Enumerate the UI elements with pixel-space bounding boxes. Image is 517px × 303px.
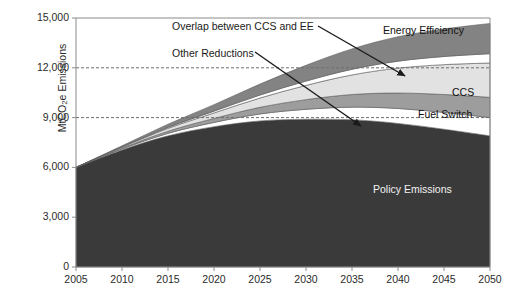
x-tick-label-2020: 2020 bbox=[200, 273, 228, 285]
x-tick-label-2030: 2030 bbox=[292, 273, 320, 285]
y-tick-label-15000: 15,000 bbox=[37, 11, 69, 23]
x-tick-label-2025: 2025 bbox=[246, 273, 274, 285]
band-label-fuel-switch: Fuel Switch bbox=[418, 108, 472, 120]
y-tick-label-3000: 3,000 bbox=[43, 210, 69, 222]
y-tick-label-9000: 9,000 bbox=[43, 111, 69, 123]
band-label-ccs: CCS bbox=[452, 86, 474, 98]
emissions-wedge-chart: MtCO2e Emissions 03,0006,0009,00012,0001… bbox=[0, 0, 517, 303]
y-axis-title: MtCO2e Emissions bbox=[56, 18, 72, 158]
stacked-area-group bbox=[76, 23, 490, 267]
x-tick-label-2015: 2015 bbox=[154, 273, 182, 285]
y-tick-label-12000: 12,000 bbox=[37, 61, 69, 73]
x-tick-label-2040: 2040 bbox=[384, 273, 412, 285]
band-label-policy-emissions: Policy Emissions bbox=[373, 183, 452, 195]
x-tick-label-2045: 2045 bbox=[430, 273, 458, 285]
x-tick-label-2005: 2005 bbox=[62, 273, 90, 285]
x-tick-label-2010: 2010 bbox=[108, 273, 136, 285]
chart-canvas bbox=[0, 0, 517, 303]
x-tick-label-2035: 2035 bbox=[338, 273, 366, 285]
x-tick-label-2050: 2050 bbox=[476, 273, 504, 285]
annotation-overlap-between-ccs-and-ee: Overlap between CCS and EE bbox=[172, 20, 314, 32]
y-axis-title-subscript: 2 bbox=[60, 100, 69, 104]
y-tick-label-0: 0 bbox=[63, 260, 69, 272]
y-tick-label-6000: 6,000 bbox=[43, 160, 69, 172]
band-label-energy-efficiency: Energy Efficiency bbox=[383, 24, 464, 36]
annotation-other-reductions: Other Reductions bbox=[172, 47, 254, 59]
